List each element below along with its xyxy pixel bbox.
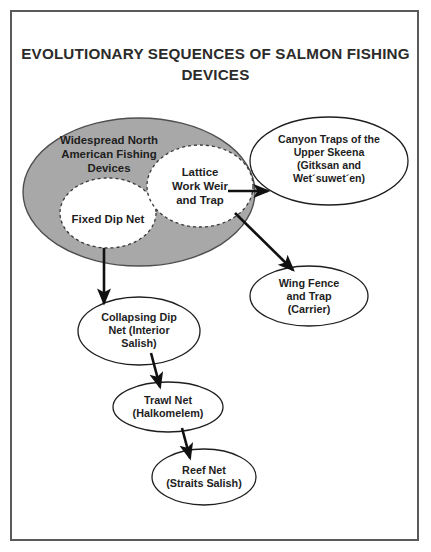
node-ellipse-fixed-dip-net[interactable]	[60, 178, 156, 248]
diagram-canvas	[0, 0, 431, 552]
node-ellipse-wing-fence-and-trap[interactable]	[250, 266, 368, 326]
figure-root: EVOLUTIONARY SEQUENCES OF SALMON FISHING…	[0, 0, 431, 552]
node-ellipse-canyon-traps[interactable]	[250, 117, 408, 205]
node-ellipse-collapsing-dip-net[interactable]	[78, 297, 200, 365]
node-ellipse-trawl-net[interactable]	[113, 382, 223, 432]
node-ellipse-reef-net[interactable]	[152, 449, 256, 505]
edge-lattice-to-wing-fence	[235, 213, 293, 270]
